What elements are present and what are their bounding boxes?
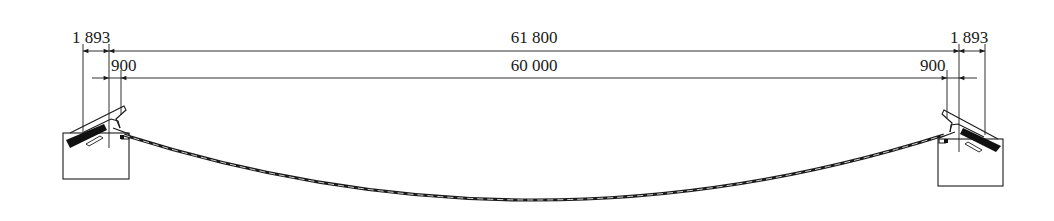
dim-right-outer: 1 893 (950, 28, 988, 47)
cable-roof-elevation-drawing: 1 893 61 800 1 893 900 60 000 900 (0, 0, 1054, 221)
suspended-cable-roof (124, 135, 944, 200)
left-abutment (63, 106, 129, 179)
dim-right-inner: 900 (920, 56, 946, 75)
dim-left-inner: 900 (111, 56, 137, 75)
dim-overall: 61 800 (511, 28, 558, 47)
dim-left-outer: 1 893 (72, 28, 110, 47)
right-abutment (938, 110, 1003, 186)
dim-clear-span: 60 000 (511, 56, 558, 75)
